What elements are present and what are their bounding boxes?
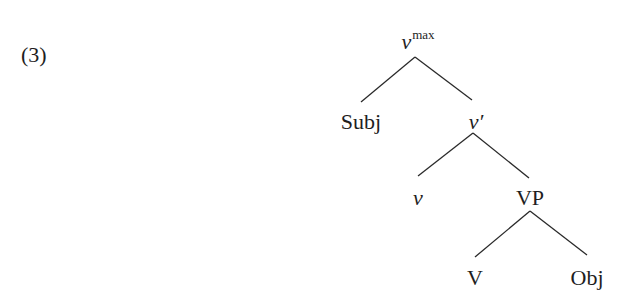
tree-node-vp: VP bbox=[516, 187, 544, 209]
edge-vbar-v bbox=[418, 133, 473, 176]
edge-vp-V bbox=[475, 211, 530, 257]
tree-node-subj: Subj bbox=[341, 111, 381, 133]
tree-node-vmax: vmax bbox=[401, 31, 434, 53]
edge-vp-obj bbox=[530, 211, 587, 255]
edge-vbar-vp bbox=[473, 133, 529, 178]
edge-vmax-subj bbox=[361, 57, 415, 102]
tree-node-v: v bbox=[413, 187, 423, 209]
tree-node-obj: Obj bbox=[571, 267, 604, 289]
tree-node-V: V bbox=[467, 267, 483, 289]
edge-vmax-vbar bbox=[415, 57, 472, 100]
node-label: v bbox=[401, 29, 411, 54]
tree-edges bbox=[0, 0, 626, 305]
tree-node-vbar: v′ bbox=[469, 111, 484, 133]
node-superscript: max bbox=[412, 27, 434, 42]
